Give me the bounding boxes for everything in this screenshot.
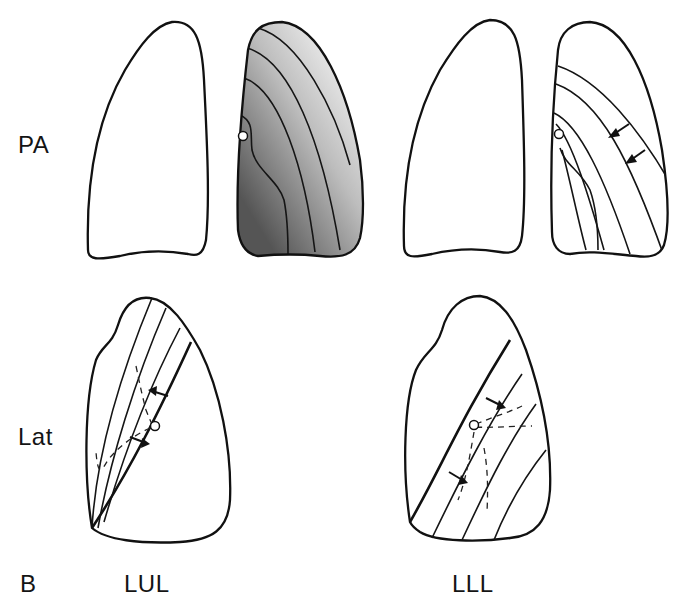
hilum-marker	[239, 132, 248, 141]
hilum-marker	[470, 421, 479, 430]
hilum-marker	[151, 422, 160, 431]
lat-lul-lung	[86, 298, 230, 543]
row-label-pa: PA	[18, 133, 49, 157]
pa-lll-right-lung	[404, 20, 525, 256]
pa-lul-right-lung	[88, 22, 208, 259]
panel-letter: B	[20, 572, 37, 596]
pa-lll-left-lung	[551, 22, 672, 257]
hilum-marker	[555, 130, 564, 139]
pa-lul-left-lung	[237, 22, 363, 257]
lat-lll-lung	[405, 296, 550, 540]
column-label-lul: LUL	[124, 572, 170, 596]
row-label-lat: Lat	[18, 425, 53, 449]
column-label-lll: LLL	[452, 572, 494, 596]
lung-collapse-diagram	[0, 0, 687, 611]
